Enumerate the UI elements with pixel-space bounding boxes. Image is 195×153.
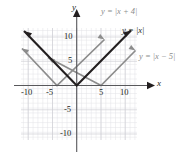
- curve-label-y-abs-x-prefix: y =: [122, 25, 134, 35]
- x-tick-5: 5: [99, 87, 103, 97]
- y-tick-minus-10: -10: [60, 128, 71, 138]
- y-tick-minus-5: -5: [64, 104, 71, 114]
- x-axis-label: x: [157, 78, 161, 88]
- absolute-value-graph-figure: -10 -5 5 10 10 5 -5 -10 x y y = |x + 4| …: [0, 0, 195, 153]
- y-axis-label: y: [72, 2, 76, 12]
- x-tick-10: 10: [120, 87, 129, 97]
- curve-y-abs-x: [24, 31, 131, 86]
- x-tick-minus-10: -10: [21, 87, 32, 97]
- coordinate-plane-svg: [0, 0, 195, 153]
- curve-label-y-abs-x-minus-5: y = |x − 5|: [139, 51, 175, 61]
- y-tick-5: 5: [68, 55, 72, 65]
- curve-label-y-abs-x: |x|: [136, 25, 144, 35]
- x-tick-minus-5: -5: [46, 87, 53, 97]
- curve-label-y-abs-x-plus-4: y = |x + 4|: [101, 6, 137, 16]
- y-tick-10: 10: [64, 31, 73, 41]
